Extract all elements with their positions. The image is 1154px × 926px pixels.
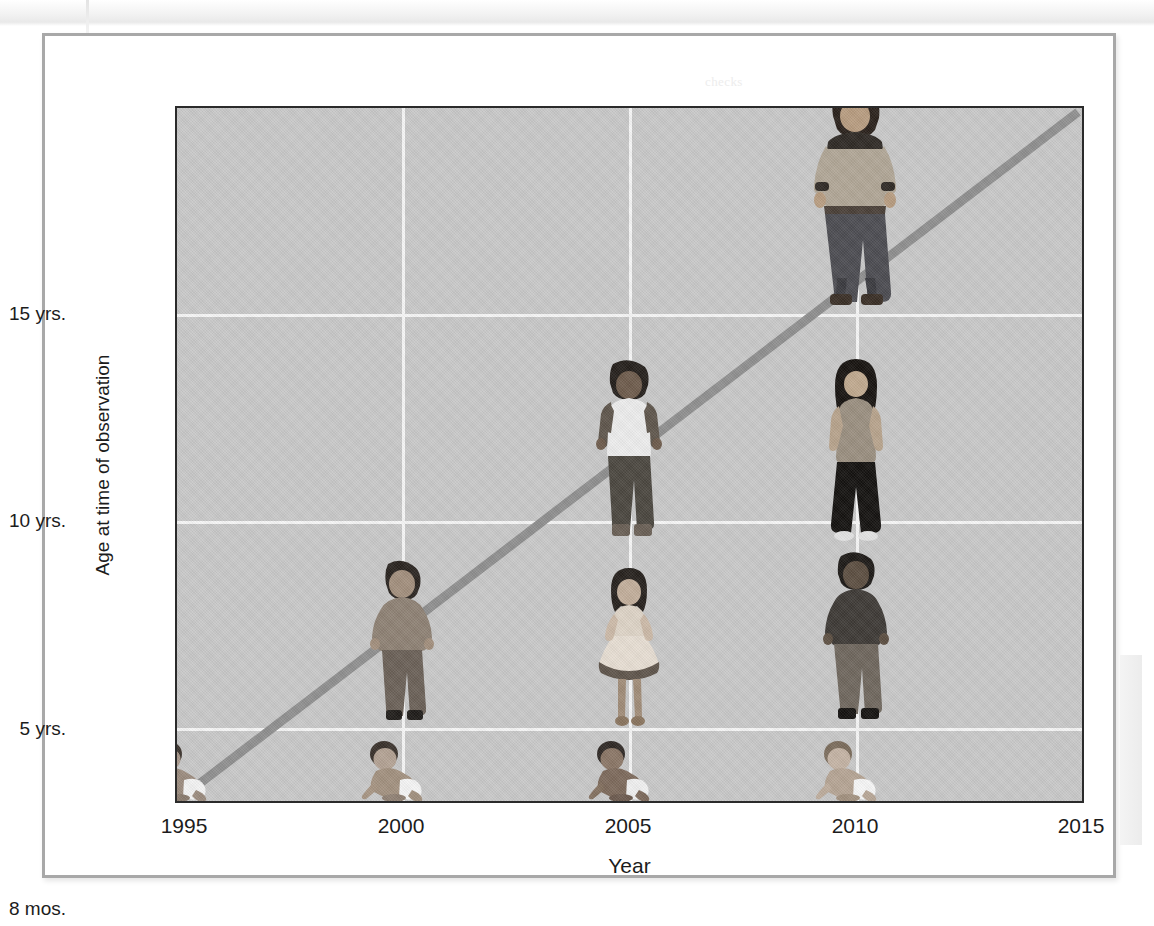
x-tick-2000: 2000 [378, 814, 425, 838]
data-point-1995-infant [175, 738, 232, 802]
y-tick-5: 5 yrs. [0, 718, 76, 740]
x-tick-1995: 1995 [161, 814, 208, 838]
teen-boy-icon [801, 106, 911, 320]
chart-figure: Age at time of observation 15 yrs. 10 yr… [45, 36, 1119, 881]
y-tick-10: 10 yrs. [0, 510, 76, 532]
crawling-baby-icon [175, 738, 232, 802]
y-tick-8mos: 8 mos. [0, 898, 76, 920]
x-tick-2010: 2010 [832, 814, 879, 838]
crawling-baby-icon [583, 738, 675, 802]
page-edge-tab [1120, 655, 1142, 845]
x-tick-2015: 2015 [1058, 814, 1105, 838]
toddler-boy-icon [360, 558, 444, 734]
x-axis-label: Year [175, 854, 1084, 878]
y-axis-label: Age at time of observation [92, 255, 114, 675]
data-point-2010-5yrs [814, 548, 898, 734]
young-boy-icon [814, 548, 898, 734]
page-root: checks Age at time of observation 15 yrs… [0, 0, 1154, 926]
crawling-baby-icon [810, 738, 902, 802]
data-point-2010-infant [810, 738, 902, 802]
scan-shadow-band [0, 0, 1154, 26]
school-girl-icon [813, 356, 899, 556]
y-tick-15: 15 yrs. [0, 303, 76, 325]
data-point-2005-5yrs [587, 566, 671, 734]
data-point-2010-15yrs [801, 106, 911, 320]
young-girl-dress-icon [587, 566, 671, 734]
school-boy-icon [583, 356, 675, 548]
data-point-2005-infant [583, 738, 675, 802]
plot-area [175, 106, 1084, 803]
page-sheet: checks Age at time of observation 15 yrs… [42, 33, 1116, 878]
x-tick-2005: 2005 [605, 814, 652, 838]
data-point-2000-5yrs [360, 558, 444, 734]
data-point-2010-10yrs [813, 356, 899, 556]
crawling-baby-icon [356, 738, 448, 802]
data-point-2000-infant [356, 738, 448, 802]
data-point-2005-10yrs [583, 356, 675, 548]
